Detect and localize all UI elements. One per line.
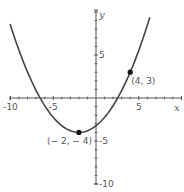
parabola-curve [10, 17, 150, 132]
x-tick-label: -10 [3, 102, 18, 112]
x-axis-label: x [174, 102, 180, 113]
data-point [76, 130, 81, 135]
y-tick-label: -5 [99, 136, 108, 146]
y-tick-label: 5 [99, 50, 105, 60]
y-tick-label: -10 [99, 179, 114, 189]
data-point [128, 70, 133, 75]
point-label: (− 2, − 4) [47, 136, 92, 146]
y-axis-label: y [98, 9, 105, 20]
x-tick-label: -5 [49, 102, 58, 112]
point-label: (4, 3) [131, 76, 155, 86]
tick-labels: -10-555-5-10 [3, 50, 141, 189]
x-tick-label: 5 [136, 102, 142, 112]
parabola-graph: -10-555-5-10 x y (4, 3)(− 2, − 4) [0, 0, 184, 192]
